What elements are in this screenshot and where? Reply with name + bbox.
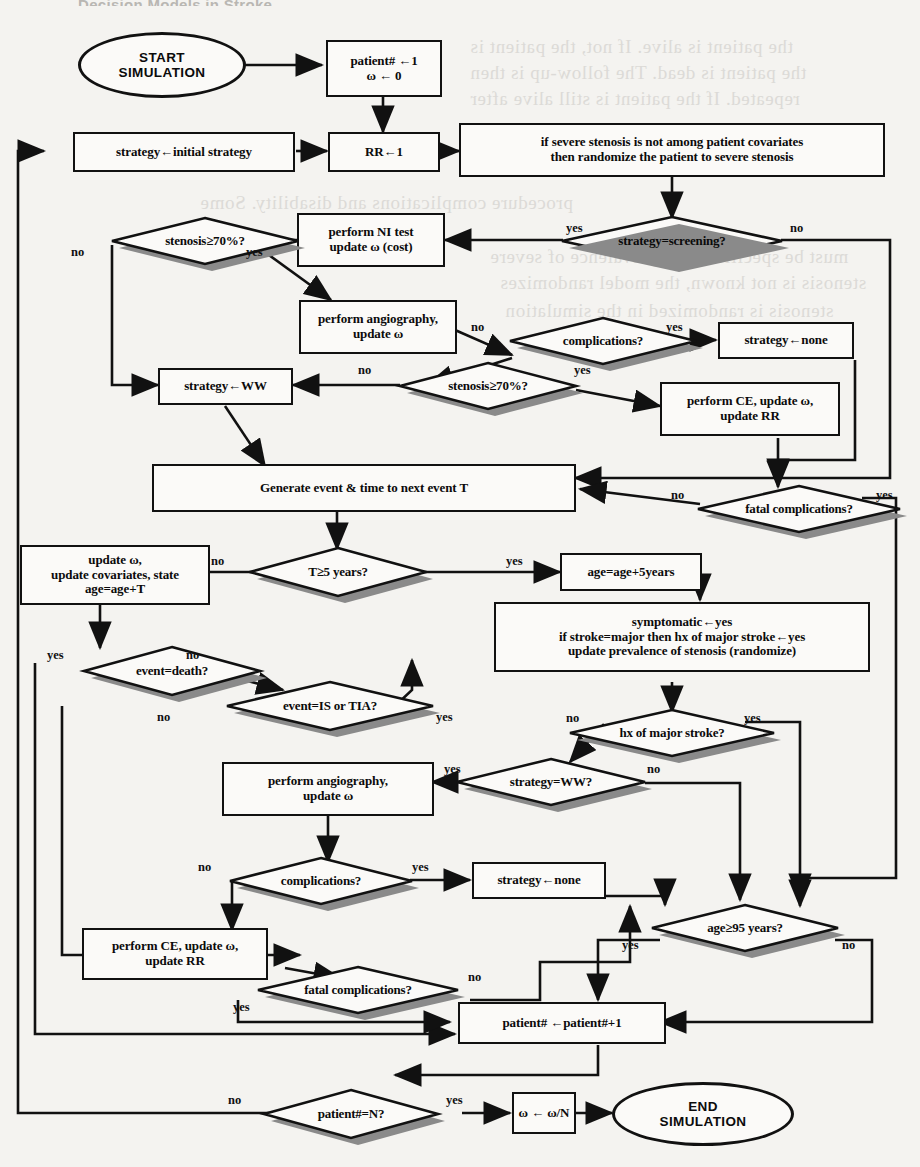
node-end-line1: END: [660, 1099, 747, 1114]
node-perform-ce-2: perform CE, update ω, update RR: [82, 928, 268, 980]
node-age95-label: age≥95 years?: [707, 920, 783, 936]
node-strategy-ww: strategy←WW: [158, 368, 293, 405]
node-perform-angiography-2: perform angiography, update ω: [222, 762, 434, 816]
node-symptomatic-line1: symptomatic←yes: [559, 615, 805, 630]
node-perform-ni-test: perform NI test update ω (cost): [297, 213, 445, 267]
node-ce1-line1: perform CE, update ω,: [687, 394, 813, 409]
node-death-label: event=death?: [136, 663, 208, 679]
label-death-yes: yes: [47, 648, 64, 663]
node-decision-strategy-ww: strategy=WW?: [455, 757, 647, 807]
label-t5-no: no: [211, 554, 224, 569]
label-hxmajor-no: no: [566, 711, 579, 726]
label-fatal1-yes: yes: [876, 488, 893, 503]
node-ce2-line1: perform CE, update ω,: [112, 939, 238, 954]
node-fatal2-label: fatal complications?: [304, 982, 412, 998]
node-strww-label: strategy=WW?: [510, 774, 592, 790]
label-age95-no: no: [842, 938, 855, 953]
node-fatal1-label: fatal complications?: [745, 501, 853, 517]
node-decision-fatal-complications-1: fatal complications?: [696, 484, 902, 534]
node-init-line2: ω ← 0: [350, 69, 417, 84]
node-decision-strategy-screening: strategy=screening?: [560, 215, 784, 267]
node-end: END SIMULATION: [612, 1082, 794, 1146]
node-updatecov-line2: update covariates, state: [51, 568, 179, 583]
node-start-line1: START: [119, 50, 206, 65]
node-next-patient: patient# ←patient#+1: [458, 1002, 666, 1044]
node-angio2-line2: update ω: [268, 789, 388, 804]
node-decision-stenosis-70-a: stenosis≥70%?: [110, 216, 300, 266]
node-decision-event-is-or-tia: event=IS or TIA?: [225, 680, 435, 732]
node-strategy-none-2: strategy←none: [472, 862, 606, 899]
label-stenosis70a-no: no: [71, 245, 84, 260]
label-patn-no: no: [228, 1093, 241, 1108]
node-updatecov-line1: update ω,: [51, 553, 179, 568]
node-start-line2: SIMULATION: [119, 65, 206, 80]
node-angio1-line1: perform angiography,: [318, 312, 438, 327]
label-strww-no: no: [647, 762, 660, 777]
node-decision-age-95: age≥95 years?: [650, 903, 840, 953]
label-complications2-no: no: [198, 860, 211, 875]
label-fatal2-yes: yes: [233, 1000, 250, 1015]
node-stenosis70a-label: stenosis≥70%?: [165, 233, 245, 249]
node-perform-angiography-1: perform angiography, update ω: [299, 300, 457, 354]
label-stenosis70a-yes: yes: [246, 245, 263, 260]
label-istia-no: no: [157, 710, 170, 725]
node-rr-init: RR←1: [328, 132, 440, 172]
label-fatal1-no: no: [671, 488, 684, 503]
node-update-covariates: update ω, update covariates, state age=a…: [20, 545, 210, 605]
node-symptomatic-line3: update prevalence of stenosis (randomize…: [559, 644, 805, 659]
node-initial-strategy: strategy←initial strategy: [73, 132, 295, 172]
node-hxmajor-label: hx of major stroke?: [619, 725, 724, 741]
node-updatecov-line3: age=age+T: [51, 582, 179, 597]
node-symptomatic: symptomatic←yes if stroke=major then hx …: [494, 602, 870, 672]
node-nitest-line1: perform NI test: [328, 225, 413, 240]
node-angio1-line2: update ω: [318, 327, 438, 342]
node-decision-complications-2: complications?: [228, 856, 414, 906]
node-end-line2: SIMULATION: [660, 1114, 747, 1129]
node-decision-patient-n: patient#=N?: [262, 1088, 440, 1140]
node-strategy-none-1: strategy←none: [718, 322, 854, 359]
node-perform-ce-1: perform CE, update ω, update RR: [660, 382, 840, 436]
label-screening-no: no: [790, 221, 803, 236]
node-age-plus-5years: age=age+5years: [560, 553, 702, 591]
node-nitest-line2: update ω (cost): [328, 240, 413, 255]
label-fatal2-no: no: [468, 970, 481, 985]
label-age95-yes: yes: [622, 938, 639, 953]
node-omega-average: ω ← ω/N: [512, 1092, 576, 1134]
node-decision-t5-years: T≥5 years?: [248, 546, 428, 598]
node-screening-label: strategy=screening?: [618, 233, 725, 249]
label-complications1-yes: yes: [666, 320, 683, 335]
node-complications1-label: complications?: [563, 333, 643, 349]
node-ce2-line2: update RR: [112, 954, 238, 969]
label-complications1-no: no: [471, 320, 484, 335]
node-generate-event: Generate event & time to next event T: [152, 464, 576, 512]
label-stenosis70b-no: no: [358, 363, 371, 378]
node-stenosis70b-label: stenosis≥70%?: [448, 378, 528, 394]
node-init-line1: patient# ←1: [350, 54, 417, 69]
node-start: START SIMULATION: [78, 32, 246, 98]
node-rand-line2: then randomize the patient to severe ste…: [541, 150, 803, 165]
node-randomize-severe-stenosis: if severe stenosis is not among patient …: [459, 123, 885, 177]
label-istia-yes: yes: [436, 710, 453, 725]
node-decision-stenosis-70-b: stenosis≥70%?: [398, 361, 578, 411]
node-rand-line1: if severe stenosis is not among patient …: [541, 135, 803, 150]
label-patn-yes: yes: [446, 1093, 463, 1108]
label-t5-yes: yes: [506, 554, 523, 569]
node-angio2-line1: perform angiography,: [268, 774, 388, 789]
label-strww-yes: yes: [444, 762, 461, 777]
flowchart-page: Decision Models in Stroke the patient is…: [0, 0, 920, 1167]
node-init-patient: patient# ←1 ω ← 0: [326, 40, 442, 97]
node-patn-label: patient#=N?: [318, 1106, 385, 1122]
label-death-no: no: [186, 648, 199, 663]
node-complications2-label: complications?: [281, 873, 361, 889]
node-decision-fatal-complications-2: fatal complications?: [256, 965, 460, 1015]
label-hxmajor-yes: yes: [744, 711, 761, 726]
node-t5-label: T≥5 years?: [308, 564, 368, 580]
label-stenosis70b-yes: yes: [574, 363, 591, 378]
label-screening-yes: yes: [566, 221, 583, 236]
node-symptomatic-line2: if stroke=major then hx of major stroke←…: [559, 630, 805, 645]
label-complications2-yes: yes: [412, 860, 429, 875]
node-ce1-line2: update RR: [687, 409, 813, 424]
node-istia-label: event=IS or TIA?: [283, 698, 377, 714]
